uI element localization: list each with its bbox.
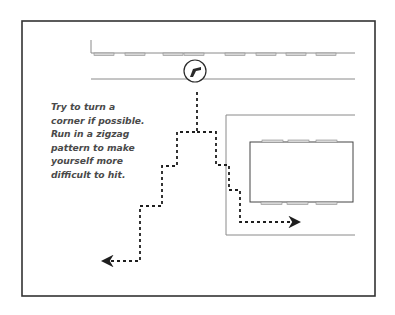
caption-line: Try to turn a (51, 100, 161, 114)
window (288, 140, 309, 143)
window (184, 53, 204, 56)
caption-line: pattern to make (51, 141, 161, 155)
window (286, 53, 306, 56)
window (316, 53, 336, 56)
instruction-caption: Try to turn a corner if possible. Run in… (51, 100, 161, 182)
window (225, 53, 245, 56)
window (125, 53, 145, 56)
window (316, 140, 337, 143)
zigzag-escape-diagram: Try to turn a corner if possible. Run in… (0, 0, 395, 315)
window (261, 202, 282, 205)
window (163, 53, 183, 56)
street-top (91, 40, 355, 79)
caption-line: corner if possible. (51, 114, 161, 128)
window (94, 53, 114, 56)
window (262, 140, 283, 143)
window (287, 202, 308, 205)
caption-line: yourself more (51, 154, 161, 168)
caption-line: Run in a zigzag (51, 127, 161, 141)
gun-icon (184, 60, 206, 82)
window (316, 202, 337, 205)
caption-line: difficult to hit. (51, 168, 161, 182)
street-corner-block (226, 115, 355, 235)
window (256, 53, 276, 56)
building (250, 142, 353, 202)
